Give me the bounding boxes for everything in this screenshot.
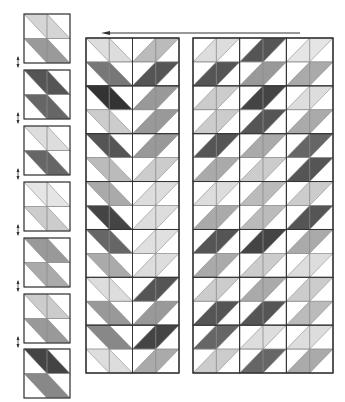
panel-row	[193, 301, 333, 325]
panel-row	[193, 325, 333, 349]
arrow-head-up	[17, 112, 20, 116]
left-quilt-panel	[86, 38, 179, 373]
arrow-head-down	[17, 344, 20, 348]
right-quilt-panel	[193, 38, 333, 373]
panel-row	[193, 62, 333, 86]
small-blocks-column	[24, 14, 70, 398]
arrow-head-down	[17, 120, 20, 124]
arrow-head-up	[17, 56, 20, 60]
arrow-head	[101, 31, 110, 35]
panel-row	[193, 253, 333, 277]
arrow-head-down	[17, 176, 20, 180]
quilt-block	[24, 349, 70, 398]
panel-row	[193, 182, 333, 206]
quilt-block	[24, 70, 70, 119]
quilt-diagram	[0, 0, 345, 402]
side-arrow-icon	[17, 336, 20, 348]
arrow-head-up	[17, 168, 20, 172]
quilt-block	[24, 294, 70, 343]
arrow-head-up	[17, 224, 20, 228]
arrow-head-down	[17, 288, 20, 292]
arrow-head-up	[17, 336, 20, 340]
quilt-block	[24, 238, 70, 287]
quilt-block	[24, 14, 70, 63]
arrow-head-down	[17, 64, 20, 68]
panel-row	[193, 229, 333, 253]
panel-row	[193, 158, 333, 182]
side-arrow-icon	[17, 112, 20, 124]
side-arrows	[17, 56, 20, 348]
panel-row	[193, 110, 333, 134]
panel-row	[193, 38, 333, 62]
side-arrow-icon	[17, 224, 20, 236]
top-arrow-icon	[101, 31, 300, 35]
side-arrow-icon	[17, 168, 20, 180]
panel-row	[193, 206, 333, 230]
panel-row	[193, 134, 333, 158]
arrow-head-up	[17, 280, 20, 284]
arrow-head-down	[17, 232, 20, 236]
panel-row	[193, 277, 333, 301]
side-arrow-icon	[17, 56, 20, 68]
side-arrow-icon	[17, 280, 20, 292]
quilt-block	[24, 126, 70, 175]
quilt-block	[24, 182, 70, 231]
panel-row	[193, 349, 333, 373]
panel-row	[193, 86, 333, 110]
